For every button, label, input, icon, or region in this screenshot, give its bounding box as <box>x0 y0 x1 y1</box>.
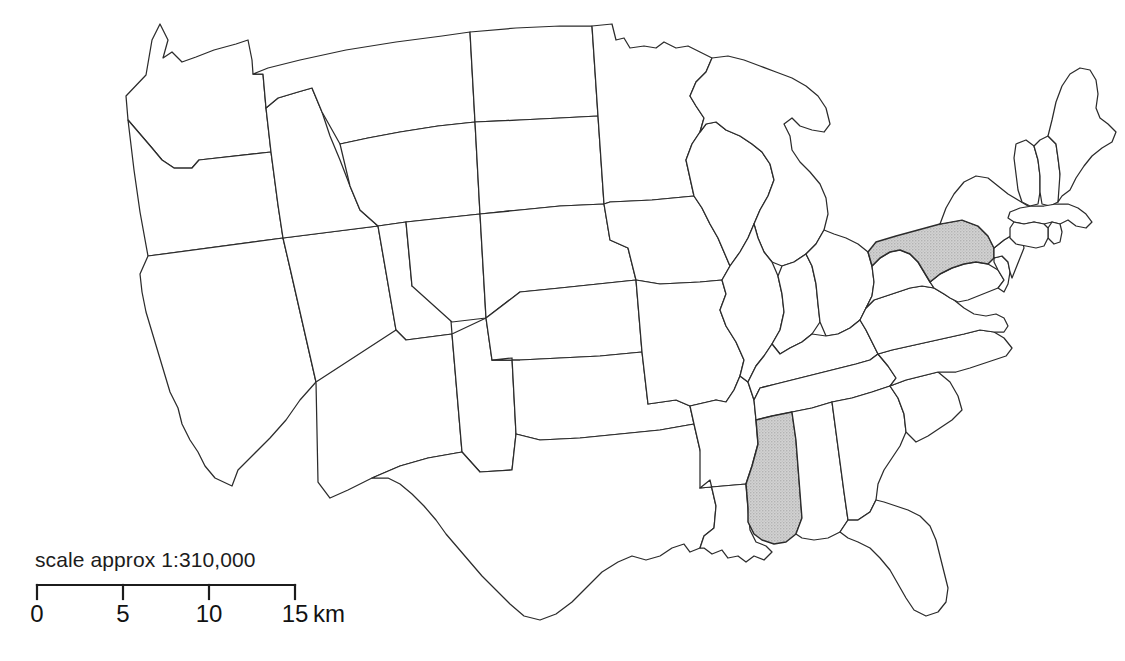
state-connecticut[interactable] <box>1010 222 1048 248</box>
us-states-map-figure: scale approx 1:310,000 0 5 10 15 km <box>0 0 1125 661</box>
state-california[interactable] <box>140 238 316 486</box>
scale-unit-label: km <box>313 600 345 628</box>
scale-tick-5: 5 <box>116 600 129 628</box>
states-layer <box>126 24 1116 620</box>
scale-tick-10: 10 <box>196 600 223 628</box>
scale-bar: scale approx 1:310,000 0 5 10 15 km <box>30 548 330 646</box>
state-north-dakota[interactable] <box>470 26 598 122</box>
state-south-dakota[interactable] <box>475 116 604 214</box>
scale-caption: scale approx 1:310,000 <box>35 548 256 572</box>
scale-tick-0: 0 <box>30 600 43 628</box>
scale-tick-labels: 0 5 10 15 km <box>30 600 330 634</box>
state-rhode-island[interactable] <box>1048 222 1062 244</box>
scale-tick-15: 15 <box>282 600 309 628</box>
